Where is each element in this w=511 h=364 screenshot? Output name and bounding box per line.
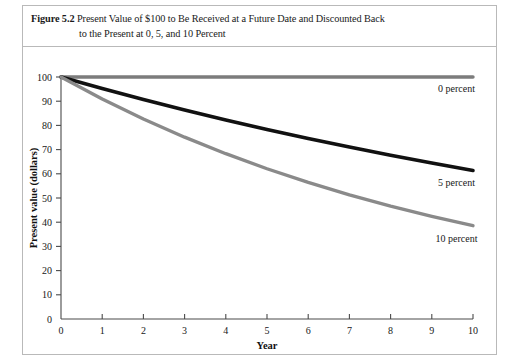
present-value-line-chart: 0102030405060708090100 012345678910 0 pe…	[23, 47, 496, 355]
y-axis-title: Present value (dollars)	[28, 147, 40, 248]
series-label-10-percent: 10 percent	[436, 233, 478, 244]
x-tick-label: 0	[59, 325, 64, 336]
series-line-10-percent	[61, 77, 473, 226]
y-axis-ticks: 0102030405060708090100	[37, 72, 61, 325]
figure-title-band: Figure 5.2 Present Value of $100 to Be R…	[23, 6, 496, 47]
x-tick-label: 4	[223, 325, 228, 336]
figure-number: Figure 5.2	[31, 13, 74, 24]
series-label-5-percent: 5 percent	[438, 177, 475, 188]
x-tick-label: 9	[429, 325, 434, 336]
y-tick-label: 70	[42, 144, 52, 155]
series-layer	[61, 77, 473, 226]
x-tick-label: 7	[347, 325, 352, 336]
series-label-0-percent: 0 percent	[438, 83, 475, 94]
x-tick-label: 6	[306, 325, 311, 336]
figure-caption-line-1: Figure 5.2 Present Value of $100 to Be R…	[31, 11, 488, 26]
y-tick-label: 100	[37, 72, 52, 83]
y-tick-label: 90	[42, 96, 52, 107]
x-tick-label: 3	[182, 325, 187, 336]
series-line-5-percent	[61, 77, 473, 170]
x-axis-title: Year	[257, 340, 278, 351]
plot-area: 0102030405060708090100 012345678910 0 pe…	[23, 47, 496, 354]
y-tick-label: 40	[42, 217, 52, 228]
y-tick-label: 50	[42, 193, 52, 204]
x-tick-label: 5	[265, 325, 270, 336]
figure-frame: Figure 5.2 Present Value of $100 to Be R…	[22, 5, 497, 355]
x-tick-label: 2	[141, 325, 146, 336]
y-tick-label: 0	[47, 314, 52, 325]
y-tick-label: 80	[42, 120, 52, 131]
y-tick-label: 30	[42, 241, 52, 252]
y-tick-label: 10	[42, 289, 52, 300]
x-axis-ticks: 012345678910	[59, 314, 479, 336]
figure-caption-text-1: Present Value of $100 to Be Received at …	[77, 13, 385, 24]
x-tick-label: 10	[468, 325, 478, 336]
y-tick-label: 60	[42, 168, 52, 179]
figure-caption-line-2: to the Present at 0, 5, and 10 Percent	[31, 26, 488, 41]
x-tick-label: 8	[388, 325, 393, 336]
x-tick-label: 1	[100, 325, 105, 336]
y-tick-label: 20	[42, 265, 52, 276]
